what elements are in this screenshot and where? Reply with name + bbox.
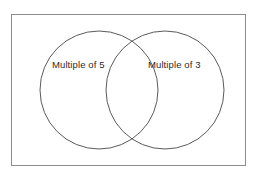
venn-circles-svg — [0, 0, 258, 179]
venn-label-right: Multiple of 3 — [148, 59, 201, 70]
venn-circle-left — [40, 31, 158, 149]
venn-diagram: Multiple of 5 Multiple of 3 — [0, 0, 258, 179]
venn-label-left: Multiple of 5 — [52, 59, 105, 70]
venn-circle-right — [106, 31, 224, 149]
